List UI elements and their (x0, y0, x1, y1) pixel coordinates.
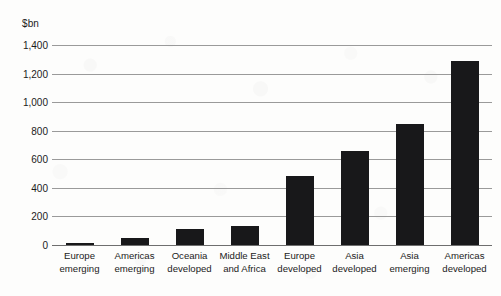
bar-chart: $bn 1,4001,2001,0008006004002000 Europee… (0, 0, 501, 296)
category-label-line1: Asia (327, 250, 382, 263)
bar-7 (396, 124, 424, 245)
y-tick-label-1400: 1,400 (4, 40, 48, 51)
axis-baseline (52, 245, 492, 246)
category-label-line1: Asia (382, 250, 437, 263)
bar-series (52, 45, 492, 245)
y-tick-label-0: 0 (4, 240, 48, 251)
x-category-label-7: Asiaemerging (382, 250, 437, 275)
y-tick-label-400: 400 (4, 182, 48, 193)
bar-5 (286, 176, 314, 245)
x-category-label-4: Middle Eastand Africa (217, 250, 272, 275)
bar-8 (451, 61, 479, 245)
category-label-line2: emerging (382, 263, 437, 276)
y-tick-label-600: 600 (4, 154, 48, 165)
category-label-line1: Middle East (217, 250, 272, 263)
category-label-line1: Americas (437, 250, 492, 263)
x-category-label-6: Asiadeveloped (327, 250, 382, 275)
x-axis-category-labels: EuropeemergingAmericasemergingOceaniadev… (52, 250, 492, 290)
category-label-line2: developed (162, 263, 217, 276)
bar-6 (341, 151, 369, 245)
y-tick-label-200: 200 (4, 211, 48, 222)
y-axis-unit-label: $bn (22, 18, 39, 29)
bar-3 (176, 229, 204, 245)
x-category-label-1: Europeemerging (52, 250, 107, 275)
y-tick-label-800: 800 (4, 125, 48, 136)
x-category-label-2: Americasemerging (107, 250, 162, 275)
x-category-label-5: Europedeveloped (272, 250, 327, 275)
category-label-line2: developed (327, 263, 382, 276)
y-tick-label-1200: 1,200 (4, 68, 48, 79)
category-label-line2: developed (272, 263, 327, 276)
bar-2 (121, 238, 149, 245)
bar-4 (231, 226, 259, 245)
category-label-line1: Europe (52, 250, 107, 263)
x-category-label-8: Americasdeveloped (437, 250, 492, 275)
x-category-label-3: Oceaniadeveloped (162, 250, 217, 275)
bar-1 (66, 243, 94, 245)
category-label-line1: Oceania (162, 250, 217, 263)
y-axis-tick-labels: 1,4001,2001,0008006004002000 (0, 45, 48, 245)
category-label-line2: emerging (52, 263, 107, 276)
category-label-line2: emerging (107, 263, 162, 276)
category-label-line2: developed (437, 263, 492, 276)
category-label-line1: Americas (107, 250, 162, 263)
category-label-line2: and Africa (217, 263, 272, 276)
y-tick-label-1000: 1,000 (4, 97, 48, 108)
category-label-line1: Europe (272, 250, 327, 263)
